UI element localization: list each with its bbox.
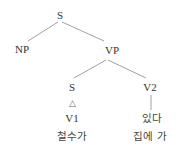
node-np: NP	[15, 44, 29, 55]
edge-s-np	[28, 22, 58, 41]
node-v2: V2	[143, 82, 156, 93]
edge-s-vp	[62, 22, 104, 41]
node-lower-s: S	[69, 82, 75, 93]
node-v2-word: 있다	[142, 113, 162, 124]
node-v1: V1	[65, 113, 78, 124]
node-v1-text: 철수가	[57, 131, 87, 142]
triangle-icon: △	[69, 99, 76, 108]
node-vp: VP	[105, 45, 119, 56]
edge-vp-v2	[108, 60, 146, 78]
edge-vp-s	[74, 60, 106, 78]
node-root-s: S	[57, 10, 63, 21]
node-v2-text: 집에 가	[133, 131, 166, 142]
